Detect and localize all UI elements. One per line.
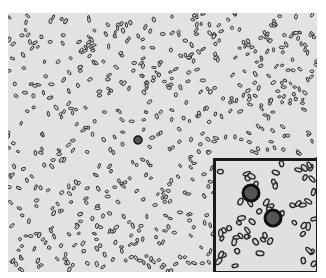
inset-particles [216,161,316,271]
magnified-inset [213,158,317,272]
large-sphere [265,210,281,226]
large-sphere [243,185,259,201]
microscopy-image [8,13,317,272]
